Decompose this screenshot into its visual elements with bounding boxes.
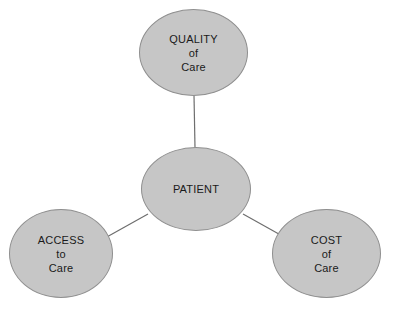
edge-patient-quality	[194, 95, 195, 148]
node-patient-label: PATIENT	[173, 182, 219, 196]
node-access[interactable]: ACCESS to Care	[9, 209, 113, 298]
node-cost-label: COST of Care	[311, 233, 342, 275]
node-quality[interactable]: QUALITY of Care	[139, 9, 248, 96]
node-access-label: ACCESS to Care	[38, 233, 84, 275]
edge-patient-access	[105, 214, 148, 238]
diagram-canvas: QUALITY of Care PATIENT ACCESS to Care C…	[0, 0, 393, 313]
node-cost[interactable]: COST of Care	[272, 209, 381, 298]
node-quality-label: QUALITY of Care	[169, 32, 217, 74]
node-patient[interactable]: PATIENT	[141, 147, 251, 231]
